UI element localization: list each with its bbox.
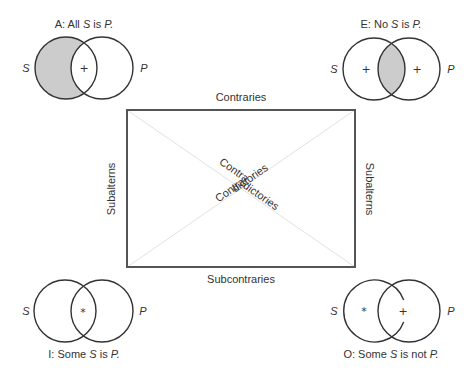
contradictories-2-part2: dictories (241, 179, 282, 213)
venn-o: * + S P O: Some S is not P. (330, 280, 455, 360)
i-s-label: S (22, 305, 30, 317)
i-p-label: P (139, 305, 147, 317)
square-of-opposition: Contraries Subcontraries Subalterns Suba… (0, 0, 470, 380)
venn-a: A: All S is P. + S P (22, 18, 148, 99)
a-plus-mark: + (79, 62, 88, 75)
subalterns-left-label: Subalterns (105, 162, 117, 215)
subalterns-right-label: Subalterns (364, 163, 376, 216)
o-circle-s (344, 280, 404, 342)
e-s-label: S (330, 63, 338, 75)
a-p-label: P (140, 62, 148, 74)
e-plus-mark-left: + (361, 63, 370, 76)
o-star-mark: * (361, 305, 367, 318)
venn-i: * S P I: Some S is P. (22, 280, 147, 360)
a-caption: A: All S is P. (55, 18, 114, 30)
contraries-label: Contraries (216, 91, 267, 103)
venn-e: E: No S is P. + + S P (330, 18, 455, 100)
e-caption: E: No S is P. (361, 18, 422, 30)
o-s-label: S (330, 305, 338, 317)
o-p-label: P (447, 305, 455, 317)
e-plus-mark-right: + (412, 63, 421, 76)
contradictories-labels: Contra dictories Contra dictories (213, 155, 282, 212)
o-caption: O: Some S is not P. (343, 348, 438, 360)
o-circle-p (378, 280, 440, 342)
i-circle-s (34, 280, 96, 342)
i-star-mark: * (80, 306, 86, 319)
subcontraries-label: Subcontraries (207, 273, 275, 285)
e-p-label: P (447, 63, 455, 75)
i-caption: I: Some S is P. (48, 348, 119, 360)
a-s-label: S (22, 62, 30, 74)
o-plus-mark: + (398, 305, 407, 318)
